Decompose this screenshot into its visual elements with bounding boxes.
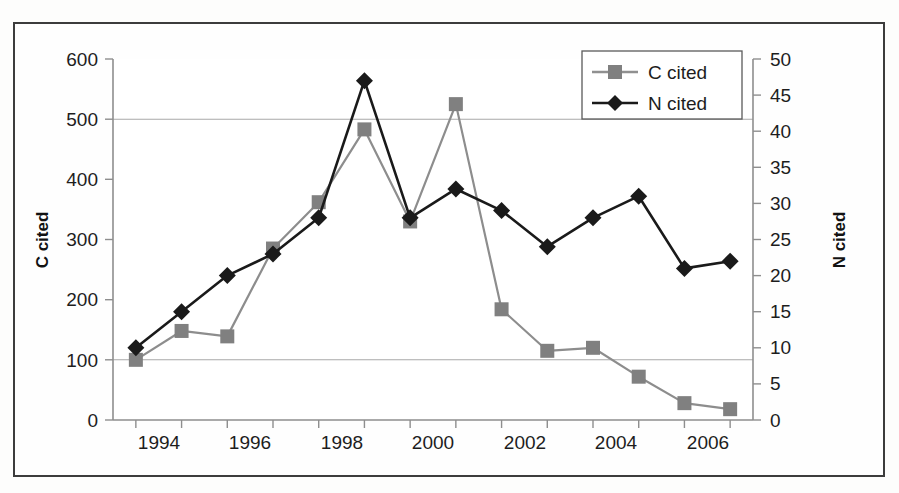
x-tick-label-2002: 2002 (504, 432, 546, 453)
right-tick-label-0: 0 (770, 410, 781, 431)
left-tick-label-400: 400 (66, 169, 98, 190)
marker-square[interactable] (175, 324, 189, 338)
right-tick-label-15: 15 (770, 301, 791, 322)
right-tick-label-35: 35 (770, 157, 791, 178)
x-tick-label-2006: 2006 (687, 432, 729, 453)
marker-square[interactable] (540, 344, 554, 358)
figure-root: 600 500 400 300 200 100 0 C cited 50 45 (0, 0, 899, 493)
right-tick-label-40: 40 (770, 121, 791, 142)
legend-label-c-cited: C cited (648, 62, 707, 83)
right-tick-label-50: 50 (770, 49, 791, 70)
right-tick-label-30: 30 (770, 193, 791, 214)
right-tick-label-5: 5 (770, 373, 781, 394)
legend-label-n-cited: N cited (648, 93, 707, 114)
left-axis: 600 500 400 300 200 100 0 C cited (33, 49, 113, 431)
chart-canvas: 600 500 400 300 200 100 0 C cited 50 45 (0, 0, 899, 493)
right-tick-label-45: 45 (770, 85, 791, 106)
left-axis-title: C cited (33, 212, 52, 269)
x-tick-label-1996: 1996 (229, 432, 271, 453)
marker-square[interactable] (586, 341, 600, 355)
marker-square[interactable] (220, 329, 234, 343)
x-tick-label-1994: 1994 (138, 432, 181, 453)
bottom-axis: 1994 1996 1998 2000 2002 2004 2006 (113, 420, 753, 453)
marker-square[interactable] (357, 122, 371, 136)
legend: C cited N cited (582, 51, 742, 119)
marker-square[interactable] (723, 402, 737, 416)
left-tick-label-200: 200 (66, 289, 98, 310)
marker-square[interactable] (495, 302, 509, 316)
x-tick-label-2004: 2004 (595, 432, 638, 453)
legend-marker-square-icon (608, 65, 622, 79)
x-tick-label-2000: 2000 (412, 432, 454, 453)
marker-square[interactable] (632, 370, 646, 384)
left-tick-label-500: 500 (66, 109, 98, 130)
right-tick-label-20: 20 (770, 265, 791, 286)
left-tick-label-600: 600 (66, 49, 98, 70)
left-tick-label-100: 100 (66, 350, 98, 371)
right-axis-title: N cited (830, 212, 849, 269)
left-tick-label-0: 0 (87, 410, 98, 431)
right-tick-label-10: 10 (770, 337, 791, 358)
right-axis: 50 45 40 35 30 25 20 15 10 5 0 N cited (753, 49, 849, 431)
x-tickmarks (136, 420, 730, 428)
left-tick-label-300: 300 (66, 229, 98, 250)
marker-square[interactable] (449, 97, 463, 111)
right-tick-label-25: 25 (770, 229, 791, 250)
marker-square[interactable] (677, 396, 691, 410)
x-tick-label-1998: 1998 (321, 432, 363, 453)
